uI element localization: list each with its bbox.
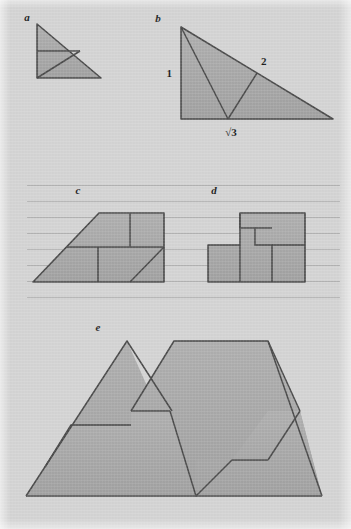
figure-e: e <box>12 321 340 514</box>
geometry-figures-canvas: a b 1 2 √3 c d <box>0 0 351 529</box>
figure-e-label: e <box>96 321 101 333</box>
figure-a-label: a <box>24 11 30 23</box>
figure-c-label: c <box>76 184 81 196</box>
figure-d-label: d <box>211 184 217 196</box>
dimension-label-hypotenuse: 2 <box>261 55 267 67</box>
figure-plate: a b 1 2 √3 c d <box>0 0 351 529</box>
dimension-label-leg-long: √3 <box>225 126 237 138</box>
figure-b-label: b <box>155 12 161 24</box>
dimension-label-leg-short: 1 <box>167 67 173 79</box>
figure-e-clean: e <box>12 321 340 514</box>
